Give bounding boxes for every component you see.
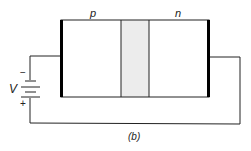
wire-left: [30, 56, 61, 80]
battery-voltage-label: V: [9, 83, 17, 95]
p-region-label: p: [90, 8, 96, 19]
n-region-label: n: [175, 8, 181, 19]
contact-right: [207, 20, 210, 97]
pn-junction-diagram: [0, 0, 251, 151]
battery-negative-sign: −: [20, 68, 26, 78]
figure-caption: (b): [128, 132, 140, 142]
battery-icon: [21, 81, 40, 97]
depletion-region: [121, 20, 149, 97]
contact-left: [60, 20, 63, 97]
battery-positive-sign: +: [20, 99, 26, 109]
